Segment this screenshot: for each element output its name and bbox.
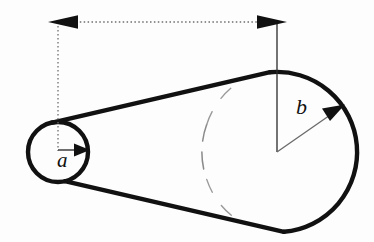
- hidden-arc-dashed-upper: [207, 82, 240, 125]
- radius-arrow-b-group: [277, 105, 345, 153]
- large-pulley-arc: [270, 72, 357, 232]
- belt-upper-span: [51, 72, 270, 123]
- hidden-arc-dashed: [202, 125, 207, 180]
- belt-pulley-diagram: [0, 0, 374, 242]
- radius-label-b: b: [296, 96, 307, 118]
- figure-canvas: a b: [0, 0, 374, 242]
- center-distance-dimension: [48, 15, 287, 152]
- hidden-arc-group: [202, 82, 244, 225]
- belt-lower-span: [65, 181, 284, 232]
- dimension-arrowhead-left: [48, 15, 78, 29]
- dimension-arrowhead-right: [257, 15, 287, 29]
- radius-label-a: a: [57, 150, 68, 171]
